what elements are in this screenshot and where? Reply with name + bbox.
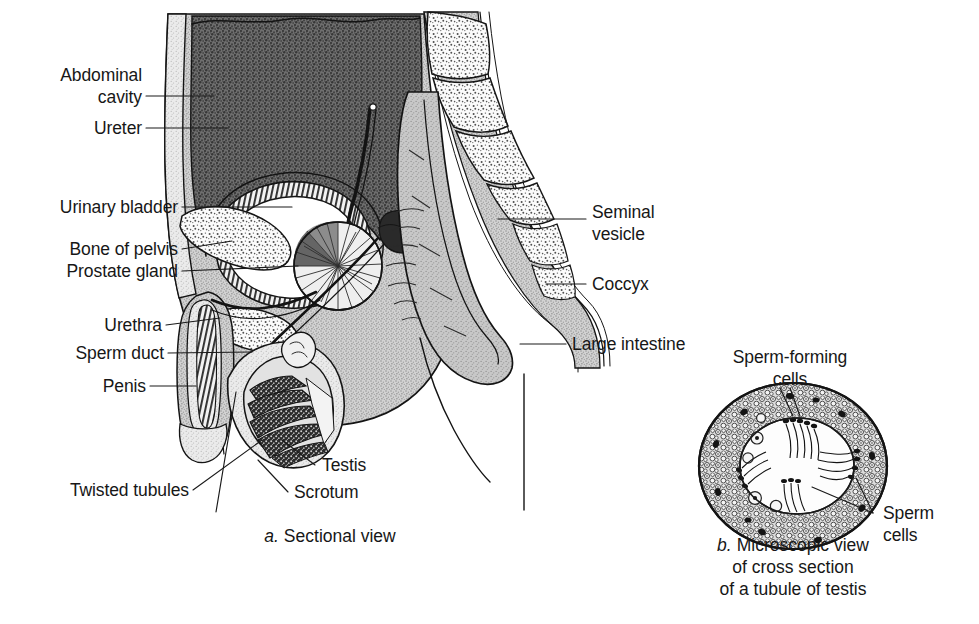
panel-b-microscopic-view: Sperm-forming cells Sperm cells b.Micros… xyxy=(699,347,934,599)
caption-b-prefix: b. xyxy=(717,535,732,555)
label-ureter: Ureter xyxy=(94,118,142,138)
anatomy-figure: Abdominal cavity Ureter Urinary bladder … xyxy=(0,0,979,624)
label-twisted-tubules: Twisted tubules xyxy=(70,480,189,500)
label-sperm-cells-line1: Sperm xyxy=(883,503,934,523)
label-urethra: Urethra xyxy=(104,315,162,335)
label-abdominal-cavity-line2: cavity xyxy=(98,87,142,107)
label-coccyx: Coccyx xyxy=(592,274,649,294)
label-sperm-forming-cells-line2: cells xyxy=(773,369,808,389)
label-sperm-forming-cells-line1: Sperm-forming xyxy=(733,347,847,367)
label-abdominal-cavity-line1: Abdominal xyxy=(60,65,142,85)
label-seminal-vesicle-line1: Seminal xyxy=(592,202,655,222)
label-large-intestine: Large intestine xyxy=(572,334,685,354)
label-seminal-vesicle-line2: vesicle xyxy=(592,224,645,244)
caption-a-prefix: a. xyxy=(264,526,279,546)
caption-a-text: Sectional view xyxy=(284,526,396,546)
caption-panel-b-line1: b.Microscopic view xyxy=(717,535,869,555)
label-sperm-cells-line2: cells xyxy=(883,525,918,545)
label-scrotum: Scrotum xyxy=(294,482,358,502)
label-sperm-duct: Sperm duct xyxy=(76,343,165,363)
panel-a-sectional-view: Abdominal cavity Ureter Urinary bladder … xyxy=(60,12,685,546)
label-testis: Testis xyxy=(322,455,366,475)
label-penis: Penis xyxy=(103,376,147,396)
caption-panel-b-line3: of a tubule of testis xyxy=(720,579,867,599)
caption-panel-a: a.Sectional view xyxy=(264,526,396,546)
label-bone-of-pelvis: Bone of pelvis xyxy=(69,239,178,259)
caption-b-text-1: Microscopic view xyxy=(737,535,870,555)
figure-root: Abdominal cavity Ureter Urinary bladder … xyxy=(0,0,979,624)
label-prostate-gland: Prostate gland xyxy=(67,261,178,281)
caption-panel-b-line2: of cross section xyxy=(732,557,854,577)
label-urinary-bladder: Urinary bladder xyxy=(60,197,178,217)
